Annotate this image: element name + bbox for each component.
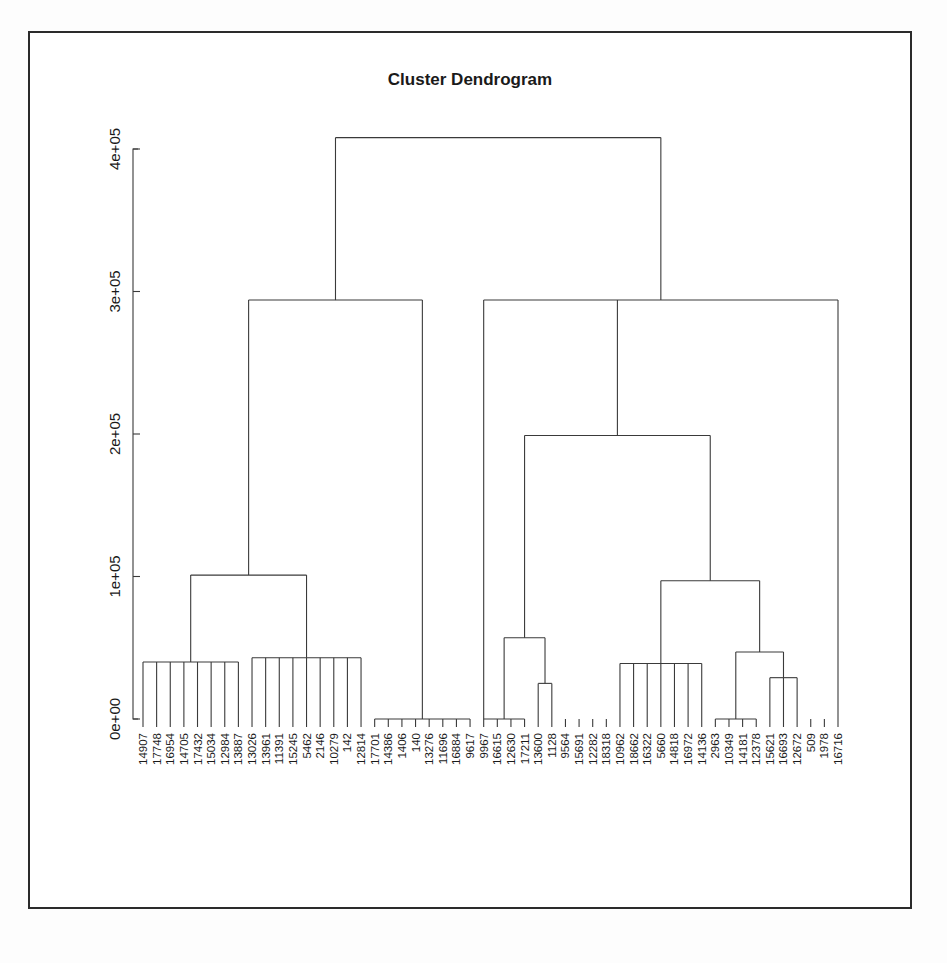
leaf-label: 18662	[628, 733, 640, 765]
y-tick-label-2: 2e+05	[106, 413, 123, 455]
y-tick-label-1: 1e+05	[106, 555, 123, 597]
leaf-label: 10279	[328, 733, 340, 765]
leaf-label: 142	[341, 733, 353, 752]
leaf-label: 12282	[587, 733, 599, 765]
leaf-label: 16954	[164, 732, 176, 765]
plot-frame-border: Cluster Dendrogram 0e+00 1e+05 2e+05 3e+…	[28, 31, 912, 909]
leaf-label: 13887	[232, 733, 244, 765]
leaf-label: 18318	[600, 733, 612, 765]
leaf-label: 12630	[505, 733, 517, 765]
leaf-label: 14136	[696, 733, 708, 765]
leaf-label: 15245	[287, 733, 299, 765]
leaf-label: 1978	[818, 733, 830, 759]
dendrogram-leaf-labels: 1490717748169541470517432150341298413887…	[137, 719, 844, 765]
leaf-label: 2963	[709, 733, 721, 759]
leaf-label: 16322	[641, 733, 653, 765]
leaf-label: 14818	[668, 733, 680, 765]
leaf-label: 14705	[178, 733, 190, 765]
leaf-label: 14386	[382, 733, 394, 765]
leaf-label: 15691	[573, 733, 585, 765]
leaf-label: 16693	[777, 733, 789, 765]
leaf-label: 16615	[491, 733, 503, 765]
leaf-label: 14907	[137, 733, 149, 765]
y-tick-label-0: 0e+00	[106, 698, 123, 740]
leaf-label: 15034	[205, 732, 217, 765]
leaf-label: 13276	[423, 733, 435, 765]
leaf-label: 11696	[437, 733, 449, 764]
leaf-label: 13600	[532, 733, 544, 765]
leaf-label: 1128	[546, 733, 558, 758]
leaf-label: 12814	[355, 732, 367, 765]
leaf-label: 5660	[655, 733, 667, 759]
leaf-label: 9617	[464, 733, 476, 759]
leaf-label: 12984	[219, 732, 231, 765]
leaf-label: 140	[410, 733, 422, 752]
leaf-label: 9967	[478, 733, 490, 759]
leaf-label: 11391	[273, 733, 285, 764]
leaf-label: 14181	[737, 733, 749, 765]
y-tick-label-4: 4e+05	[106, 128, 123, 170]
y-tick-label-3: 3e+05	[106, 270, 123, 312]
leaf-label: 16884	[450, 732, 462, 765]
leaf-label: 5462	[301, 733, 313, 759]
leaf-label: 15621	[764, 733, 776, 765]
leaf-label: 17748	[151, 733, 163, 765]
leaf-label: 509	[805, 733, 817, 752]
leaf-label: 9564	[559, 732, 571, 758]
leaf-label: 2146	[314, 733, 326, 759]
leaf-label: 12672	[791, 733, 803, 765]
screenshot-canvas: Cluster Dendrogram 0e+00 1e+05 2e+05 3e+…	[0, 0, 947, 963]
leaf-label: 16716	[832, 733, 844, 765]
dendrogram-links	[143, 138, 838, 719]
y-axis: 0e+00 1e+05 2e+05 3e+05 4e+05	[106, 128, 140, 740]
dendrogram-svg: Cluster Dendrogram 0e+00 1e+05 2e+05 3e+…	[30, 33, 910, 907]
leaf-label: 10962	[614, 733, 626, 765]
leaf-label: 1406	[396, 733, 408, 759]
leaf-label: 13961	[260, 733, 272, 765]
leaf-label: 16972	[682, 733, 694, 765]
page-title: Cluster Dendrogram	[388, 70, 552, 89]
leaf-label: 10349	[723, 733, 735, 765]
leaf-label: 13026	[246, 733, 258, 765]
leaf-label: 17211	[519, 733, 531, 764]
leaf-label: 17701	[369, 733, 381, 765]
leaf-label: 17432	[192, 733, 204, 765]
leaf-label: 12378	[750, 733, 762, 765]
